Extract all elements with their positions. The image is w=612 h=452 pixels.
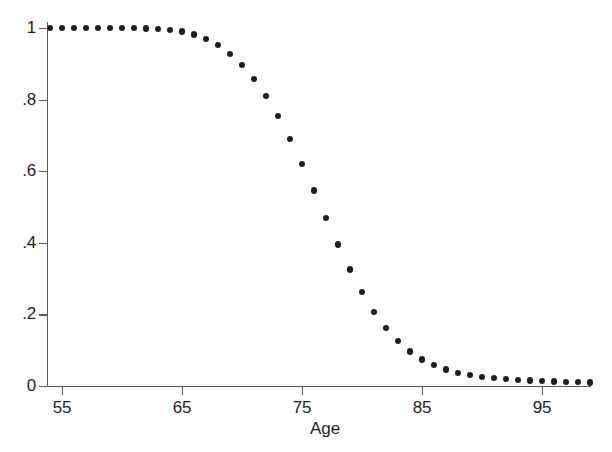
data-point	[383, 325, 389, 331]
data-point	[371, 309, 377, 315]
data-point	[119, 25, 125, 31]
data-point	[59, 25, 65, 31]
data-point	[455, 370, 461, 376]
data-point	[131, 25, 137, 31]
x-axis-title: Age	[0, 419, 612, 438]
data-point	[431, 362, 437, 368]
data-point	[203, 36, 209, 42]
survival-curve-chart: 0.2.4.6.81 5565758595 Age	[0, 0, 612, 452]
data-point	[395, 338, 401, 344]
data-point	[299, 161, 305, 167]
data-point	[347, 266, 353, 272]
data-point	[503, 376, 509, 382]
data-point	[515, 377, 521, 383]
data-point	[239, 62, 245, 68]
data-point	[323, 215, 329, 221]
data-point	[359, 289, 365, 295]
data-point	[155, 26, 161, 32]
plot-area	[0, 0, 612, 452]
data-point	[311, 187, 317, 193]
data-point	[479, 374, 485, 380]
data-point	[491, 375, 497, 381]
data-point	[47, 25, 53, 31]
data-point	[575, 379, 581, 385]
data-point	[287, 136, 293, 142]
data-point	[551, 378, 557, 384]
data-point	[179, 28, 185, 34]
data-point	[167, 27, 173, 33]
data-point	[419, 356, 425, 362]
data-point	[191, 31, 197, 37]
data-point	[251, 76, 257, 82]
data-point	[539, 378, 545, 384]
data-point	[587, 379, 593, 385]
data-point	[143, 25, 149, 31]
data-point	[107, 25, 113, 31]
data-point	[563, 379, 569, 385]
data-point	[83, 25, 89, 31]
data-point	[335, 241, 341, 247]
data-point	[527, 377, 533, 383]
data-point	[263, 93, 269, 99]
data-point	[215, 42, 221, 48]
data-point	[71, 25, 77, 31]
data-point	[95, 25, 101, 31]
data-point	[407, 348, 413, 354]
data-point	[443, 366, 449, 372]
data-point	[467, 372, 473, 378]
data-point	[275, 113, 281, 119]
data-point	[227, 51, 233, 57]
